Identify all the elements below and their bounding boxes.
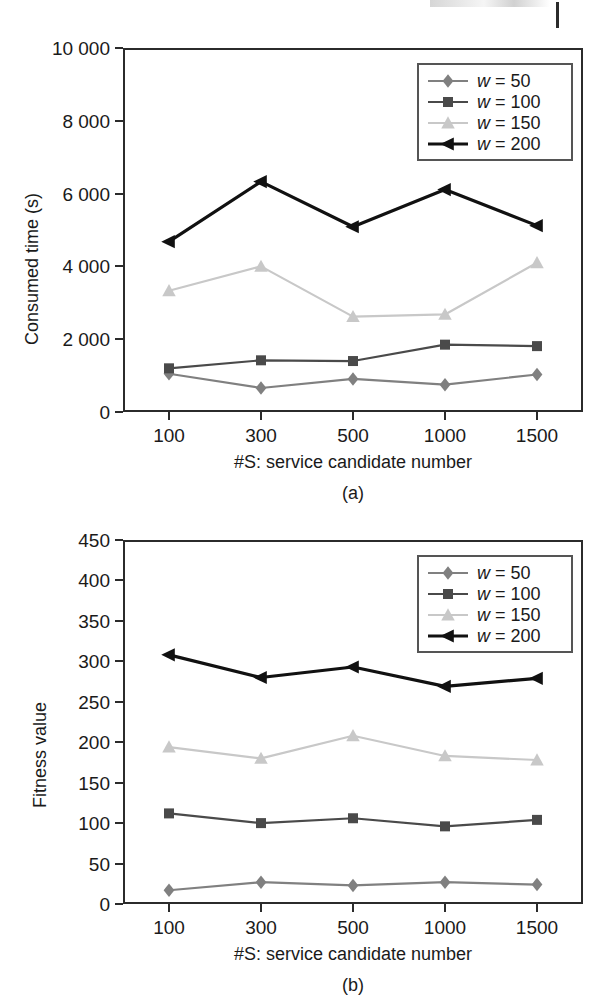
y-tick-mark xyxy=(115,782,123,784)
legend-item: w = 200 xyxy=(426,625,562,646)
y-tick-label: 10 000 xyxy=(18,39,110,58)
legend-item: w = 150 xyxy=(426,604,562,625)
y-tick-label: 250 xyxy=(18,692,110,711)
y-tick-mark xyxy=(115,120,123,122)
y-tick-label: 6 000 xyxy=(18,184,110,203)
data-point-marker xyxy=(256,381,267,395)
legend-marker-left-triangle-icon xyxy=(426,627,470,645)
y-tick-mark xyxy=(115,822,123,824)
legend-marker-square-icon xyxy=(426,93,470,111)
data-point-marker xyxy=(440,875,451,889)
series-line xyxy=(169,182,537,242)
data-point-marker xyxy=(437,183,451,196)
x-tick-mark xyxy=(352,904,354,912)
legend-label: w = 150 xyxy=(477,114,541,132)
y-tick-label: 0 xyxy=(18,895,110,914)
y-tick-label: 450 xyxy=(18,531,110,550)
data-point-marker xyxy=(532,341,542,351)
data-point-marker xyxy=(348,372,359,386)
y-tick-mark xyxy=(115,903,123,905)
legend-item: w = 200 xyxy=(426,133,562,154)
data-point-marker xyxy=(440,378,451,392)
legend-marker-diamond-icon xyxy=(426,564,470,582)
legend-item: w = 150 xyxy=(426,112,562,133)
data-point-marker xyxy=(443,566,454,580)
data-point-marker xyxy=(530,256,544,268)
x-tick-label: 500 xyxy=(337,426,369,445)
x-tick-mark xyxy=(168,412,170,420)
y-tick-mark xyxy=(115,411,123,413)
x-tick-mark xyxy=(352,412,354,420)
legend-label: w = 100 xyxy=(477,93,541,111)
panel-a-subcaption: (a) xyxy=(123,483,583,504)
y-tick-mark xyxy=(115,47,123,49)
data-point-marker xyxy=(532,815,542,825)
y-tick-label: 8 000 xyxy=(18,111,110,130)
figure-page: Consumed time (s) 02 0004 0006 0008 0001… xyxy=(0,0,612,1008)
data-point-marker xyxy=(443,589,453,599)
legend-marker-left-triangle-icon xyxy=(426,135,470,153)
x-tick-label: 100 xyxy=(153,918,185,937)
panel-b-legend: w = 50w = 100w = 150w = 200 xyxy=(417,555,573,653)
data-point-marker xyxy=(443,74,454,88)
data-point-marker xyxy=(529,219,543,232)
legend-marker-diamond-icon xyxy=(426,72,470,90)
legend-label: w = 200 xyxy=(477,627,541,645)
x-tick-label: 300 xyxy=(245,426,277,445)
legend-marker-triangle-icon xyxy=(426,114,470,132)
data-point-marker xyxy=(348,356,358,366)
legend-marker-triangle-icon xyxy=(426,606,470,624)
y-tick-mark xyxy=(115,701,123,703)
data-point-marker xyxy=(440,137,454,150)
x-tick-label: 500 xyxy=(337,918,369,937)
y-tick-mark xyxy=(115,193,123,195)
y-tick-label: 2 000 xyxy=(18,330,110,349)
y-tick-label: 200 xyxy=(18,733,110,752)
data-point-marker xyxy=(532,368,543,382)
x-tick-label: 300 xyxy=(245,918,277,937)
x-tick-mark xyxy=(444,412,446,420)
data-point-marker xyxy=(348,813,358,823)
legend-marker-square-icon xyxy=(426,585,470,603)
y-tick-label: 100 xyxy=(18,814,110,833)
data-point-marker xyxy=(161,648,175,661)
data-point-marker xyxy=(437,680,451,693)
data-point-marker xyxy=(253,671,267,684)
y-tick-label: 400 xyxy=(18,571,110,590)
data-point-marker xyxy=(443,97,453,107)
x-tick-label: 1500 xyxy=(516,426,558,445)
legend-item: w = 50 xyxy=(426,562,562,583)
x-tick-mark xyxy=(168,904,170,912)
legend-label: w = 150 xyxy=(477,606,541,624)
data-point-marker xyxy=(164,363,174,373)
data-point-marker xyxy=(440,821,450,831)
x-tick-mark xyxy=(536,412,538,420)
panel-a-legend: w = 50w = 100w = 150w = 200 xyxy=(417,63,573,161)
x-tick-mark xyxy=(536,904,538,912)
x-tick-mark xyxy=(260,412,262,420)
x-tick-label: 1000 xyxy=(424,426,466,445)
legend-item: w = 50 xyxy=(426,70,562,91)
data-point-marker xyxy=(345,220,359,233)
legend-label: w = 50 xyxy=(477,72,531,90)
y-tick-mark xyxy=(115,539,123,541)
y-tick-label: 150 xyxy=(18,773,110,792)
y-tick-mark xyxy=(115,863,123,865)
y-tick-mark xyxy=(115,741,123,743)
y-tick-mark xyxy=(115,579,123,581)
data-point-marker xyxy=(532,878,543,892)
data-point-marker xyxy=(346,729,360,741)
series-line xyxy=(169,263,537,317)
x-tick-mark xyxy=(260,904,262,912)
data-point-marker xyxy=(256,355,266,365)
panel-b-x-axis-title: #S: service candidate number xyxy=(123,944,583,965)
y-tick-label: 300 xyxy=(18,652,110,671)
legend-item: w = 100 xyxy=(426,583,562,604)
data-point-marker xyxy=(164,808,174,818)
x-tick-mark xyxy=(444,904,446,912)
data-point-marker xyxy=(256,875,267,889)
panel-a: Consumed time (s) 02 0004 0006 0008 0001… xyxy=(0,0,612,500)
y-tick-label: 0 xyxy=(18,403,110,422)
legend-item: w = 100 xyxy=(426,91,562,112)
data-point-marker xyxy=(440,340,450,350)
